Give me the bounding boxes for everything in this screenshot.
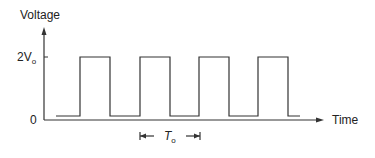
tick-label-2v0: 2Vo: [17, 51, 36, 66]
period-left-arrow-icon: [140, 134, 146, 139]
x-axis-arrow-icon: [316, 118, 324, 123]
square-wave-diagram: [0, 0, 375, 158]
tick-label-2v0-sub: o: [32, 57, 36, 66]
y-axis-arrow-icon: [42, 27, 47, 35]
x-axis-label: Time: [332, 114, 358, 126]
period-label-sub: o: [171, 136, 175, 145]
square-wave: [56, 57, 300, 116]
tick-label-zero: 0: [30, 114, 37, 126]
y-axis-label: Voltage: [20, 9, 60, 21]
period-right-arrow-icon: [194, 134, 200, 139]
tick-label-2v0-main: 2V: [17, 50, 32, 64]
period-label: To: [164, 130, 176, 145]
